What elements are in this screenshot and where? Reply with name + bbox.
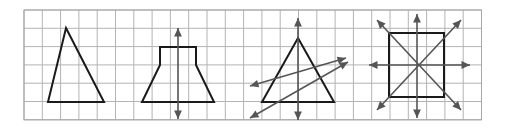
figure-canvas [0,0,511,129]
symmetry-figure [0,0,511,129]
